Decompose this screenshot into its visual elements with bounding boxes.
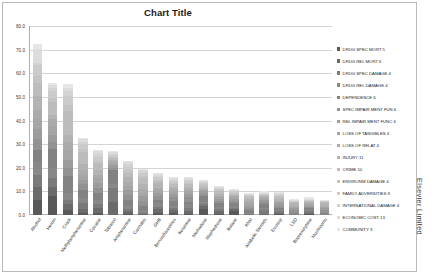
x-axis-tick-label: Khat xyxy=(244,217,253,227)
bar-segment xyxy=(48,142,58,149)
bar-segment xyxy=(259,214,269,215)
x-axis-tick-label: Ecstasy xyxy=(270,217,283,233)
bar-segment xyxy=(33,96,43,110)
stacked-bar[interactable] xyxy=(108,151,118,215)
y-axis-tick: 10.0 xyxy=(16,189,25,194)
legend-item[interactable]: DRUG SPEC MORT 5 xyxy=(337,43,419,55)
stacked-bar[interactable] xyxy=(184,177,194,215)
bar-segment xyxy=(63,210,73,215)
bar-slot xyxy=(211,26,226,215)
bar-segment xyxy=(63,168,73,176)
legend-item[interactable]: DRUG REL DAMAGE 4 xyxy=(337,79,419,91)
bar-segment xyxy=(33,162,43,175)
bar-slot xyxy=(121,26,136,215)
x-label-slot: LSD xyxy=(287,216,302,274)
stacked-bar[interactable] xyxy=(199,180,209,215)
y-axis-tick: 30.0 xyxy=(16,142,25,147)
legend-item[interactable]: INJURY 11 xyxy=(337,151,419,163)
legend-item[interactable]: DRUG REL MORT 6 xyxy=(337,55,419,67)
legend-swatch-icon xyxy=(337,132,340,135)
legend-label: CRIME 10 xyxy=(343,167,363,172)
stacked-bar[interactable] xyxy=(259,191,269,215)
stacked-bar[interactable] xyxy=(229,189,239,215)
stacked-bar[interactable] xyxy=(153,173,163,215)
bar-segment xyxy=(48,168,58,179)
bar-segment xyxy=(33,200,43,215)
legend-item[interactable]: LOSS OF TANGIBLES 4 xyxy=(337,127,419,139)
bar-segment xyxy=(48,149,58,168)
legend-swatch-icon xyxy=(337,47,340,50)
bar-slot xyxy=(317,26,332,215)
bar-segment xyxy=(63,135,73,142)
bar-slot xyxy=(196,26,211,215)
legend-label: DRUG REL DAMAGE 4 xyxy=(343,83,388,88)
legend-item[interactable]: ENVIRONM DAMAGE 4 xyxy=(337,176,419,188)
bar-segment xyxy=(184,214,194,215)
legend-label: FAMILY ADVERSITIES 9 xyxy=(343,191,390,196)
stacked-bar[interactable] xyxy=(244,193,254,215)
legend-label: INTERNATIONAL DAMAGE 4 xyxy=(343,203,400,208)
bar-segment xyxy=(63,176,73,193)
bar-slot xyxy=(287,26,302,215)
stacked-bar[interactable] xyxy=(274,192,284,216)
stacked-bar[interactable] xyxy=(289,199,299,215)
x-label-slot: Methylamphetamine xyxy=(75,216,90,274)
bar-segment xyxy=(63,111,73,135)
legend-item[interactable]: SPEC IMPAIR MENT FUN 6 xyxy=(337,103,419,115)
y-axis-tick: 60.0 xyxy=(16,71,25,76)
bar-segment xyxy=(33,76,43,83)
x-label-slot: Anabolic Steroids xyxy=(256,216,271,274)
legend-swatch-icon xyxy=(337,228,340,231)
stacked-bar[interactable] xyxy=(33,44,43,215)
stacked-bar[interactable] xyxy=(169,177,179,215)
stacked-bar[interactable] xyxy=(320,200,330,215)
bar-segment xyxy=(320,214,330,215)
stacked-bar[interactable] xyxy=(123,161,133,215)
legend-item[interactable]: DRUG SPEC DAMAGE 4 xyxy=(337,67,419,79)
legend-item[interactable]: DEPENDENCE 6 xyxy=(337,91,419,103)
bar-segment xyxy=(93,163,103,170)
legend-swatch-icon xyxy=(337,71,340,74)
x-label-slot: Buprenorphine xyxy=(302,216,317,274)
bar-slot xyxy=(272,26,287,215)
y-axis-tick: 0.0 xyxy=(19,213,25,218)
x-axis-labels: AlcoholHeroinCrackMethylamphetamineCocai… xyxy=(30,216,332,274)
legend-item[interactable]: INTERNATIONAL DAMAGE 4 xyxy=(337,200,419,212)
legend-item[interactable]: LOSS OF RELAT 4 xyxy=(337,139,419,151)
legend-label: SPEC IMPAIR MENT FUN 6 xyxy=(343,107,397,112)
stacked-bar[interactable] xyxy=(48,83,58,215)
x-label-slot: Ketamine xyxy=(181,216,196,274)
stacked-bar[interactable] xyxy=(63,84,73,215)
bar-segment xyxy=(33,187,43,200)
x-label-slot: Cannabis xyxy=(136,216,151,274)
bar-segment xyxy=(33,49,43,63)
legend-label: ENVIRONM DAMAGE 4 xyxy=(343,179,389,184)
bar-slot xyxy=(181,26,196,215)
bar-segment xyxy=(33,129,43,140)
bar-slot xyxy=(241,26,256,215)
legend-swatch-icon xyxy=(337,216,340,219)
bar-slot xyxy=(302,26,317,215)
legend-item[interactable]: CRIME 10 xyxy=(337,163,419,175)
legend-item[interactable]: REL IMPAIR MENT FUNC 6 xyxy=(337,115,419,127)
stacked-bar[interactable] xyxy=(304,197,314,215)
bar-slot xyxy=(151,26,166,215)
bar-segment xyxy=(48,126,58,134)
stacked-bar[interactable] xyxy=(214,186,224,215)
bar-segment xyxy=(93,193,103,200)
stacked-bar[interactable] xyxy=(138,169,148,215)
x-axis-tick-label: Butane xyxy=(226,217,238,232)
legend-swatch-icon xyxy=(337,180,340,183)
legend-item[interactable]: FAMILY ADVERSITIES 9 xyxy=(337,188,419,200)
legend-label: LOSS OF TANGIBLES 4 xyxy=(343,131,390,136)
bar-segment xyxy=(123,214,133,215)
stacked-bar[interactable] xyxy=(93,150,103,215)
stacked-bar[interactable] xyxy=(78,138,88,215)
legend-item[interactable]: ECONOMIC COST 13 xyxy=(337,212,419,224)
legend-item[interactable]: COMMUNITY 3 xyxy=(337,224,419,236)
bar-segment xyxy=(48,135,58,142)
bar-slot xyxy=(166,26,181,215)
bar-segment xyxy=(199,209,209,215)
y-axis-tick: 20.0 xyxy=(16,165,25,170)
legend-swatch-icon xyxy=(337,204,340,207)
